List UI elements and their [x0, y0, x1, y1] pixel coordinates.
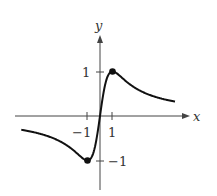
chart: x y −1 1 1 −1	[0, 0, 217, 196]
axes	[15, 35, 190, 190]
x-axis-arrow-icon	[182, 113, 190, 119]
min-point	[84, 157, 91, 164]
max-point	[109, 68, 116, 75]
x-tick-label-neg1: −1	[72, 125, 91, 140]
y-tick-label-neg1: −1	[108, 154, 127, 169]
y-axis-arrow-icon	[97, 35, 103, 43]
x-tick-label-1: 1	[108, 125, 116, 140]
y-tick-label-1: 1	[82, 65, 90, 80]
y-axis-label: y	[94, 18, 103, 33]
x-axis-label: x	[193, 109, 201, 124]
